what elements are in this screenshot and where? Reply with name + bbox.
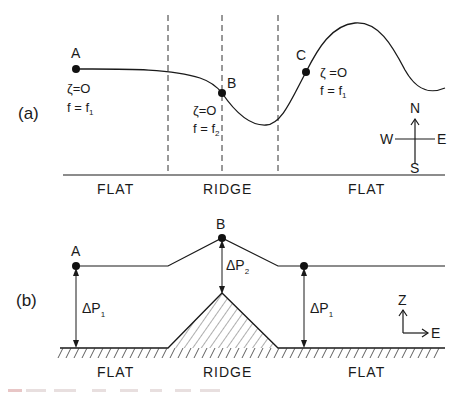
compass-south: S (410, 160, 419, 176)
region-label-flat-right-a: FLAT (348, 181, 385, 197)
axes-icon: Z E (398, 292, 440, 341)
compass-west: W (380, 131, 394, 147)
trajectory-curve (76, 23, 445, 125)
ground-hatching (58, 348, 439, 358)
delta-p1-label-left: ΔP1 (82, 300, 106, 319)
delta-p1-label-right: ΔP1 (310, 300, 334, 319)
point-c-vorticity: ζ =O (320, 65, 347, 80)
point-a-label: A (71, 45, 81, 61)
region-label-ridge-b: RIDGE (203, 364, 252, 380)
point-a-marker (72, 65, 80, 73)
axis-z-label: Z (398, 292, 407, 308)
point-b-label: B (227, 75, 236, 91)
panel-a-label: (a) (18, 104, 39, 123)
panel-a: (a) A ζ=O f = f1 B ζ=O f = f2 C ζ =O f =… (18, 15, 446, 197)
point-c-label: C (296, 47, 306, 63)
point-b-marker (218, 89, 226, 97)
compass-east: E (437, 131, 446, 147)
region-label-ridge-a: RIDGE (203, 181, 252, 197)
region-label-flat-right-b: FLAT (348, 364, 385, 380)
compass-icon: N S E W (380, 100, 446, 176)
point-b-marker-b (218, 234, 226, 242)
compass-north: N (410, 100, 420, 116)
point-a-coriolis: f = f1 (67, 100, 94, 117)
cut-off-caption (0, 388, 461, 395)
point-c-coriolis: f = f1 (320, 83, 347, 100)
axis-e-label: E (431, 325, 440, 341)
region-label-flat-left-a: FLAT (97, 181, 134, 197)
point-b-vorticity: ζ=O (193, 103, 216, 118)
region-label-flat-left-b: FLAT (97, 364, 134, 380)
upper-surface-line (76, 238, 445, 266)
panel-b: (b) A ΔP1 B ΔP2 ΔP1 Z E (16, 216, 445, 380)
point-a-marker-b (72, 262, 80, 270)
point-right-marker-b (300, 262, 308, 270)
panel-b-label: (b) (16, 291, 37, 310)
point-b-label-b: B (216, 216, 225, 232)
point-b-coriolis: f = f2 (193, 121, 220, 138)
point-c-marker (302, 68, 310, 76)
point-a-vorticity: ζ=O (67, 81, 90, 96)
delta-p2-label: ΔP2 (226, 257, 250, 276)
point-a-label-b: A (71, 243, 81, 259)
figure: (a) A ζ=O f = f1 B ζ=O f = f2 C ζ =O f =… (0, 0, 461, 395)
ridge-fill (168, 293, 278, 348)
